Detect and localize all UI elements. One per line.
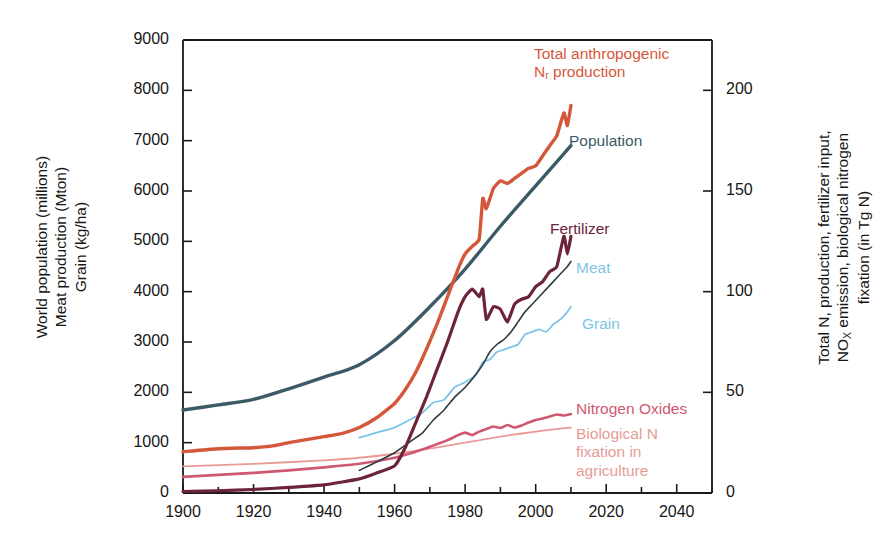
y-tick-label-left: 7000 <box>109 131 169 149</box>
y-tick-label-left: 1000 <box>109 433 169 451</box>
y-tick-label-left: 4000 <box>109 282 169 300</box>
y-tick-label-left: 3000 <box>109 332 169 350</box>
y-tick-label-left: 2000 <box>109 382 169 400</box>
y-tick-label-right: 100 <box>726 282 786 300</box>
y-tick-label-right: 150 <box>726 181 786 199</box>
series-line-total-anthropogenic-nr-production <box>183 105 571 451</box>
chart-figure: World population (millions) Meat product… <box>0 0 880 551</box>
series-label-grain: Grain <box>582 315 620 333</box>
x-tick-label: 2040 <box>642 503 712 521</box>
y-tick-label-left: 9000 <box>109 30 169 48</box>
y-tick-label-right: 200 <box>726 80 786 98</box>
y-tick-label-left: 5000 <box>109 231 169 249</box>
series-label-total-nr: Total anthropogenicNr production <box>534 45 669 82</box>
x-tick-label: 1980 <box>430 503 500 521</box>
y-tick-label-left: 0 <box>109 483 169 501</box>
series-line-population <box>183 146 571 410</box>
series-label-meat: Meat <box>576 259 610 277</box>
series-line-fertilizer <box>183 236 571 491</box>
series-line-meat <box>359 261 571 470</box>
x-tick-label: 2020 <box>571 503 641 521</box>
y-tick-label-right: 50 <box>726 382 786 400</box>
x-tick-label: 1900 <box>148 503 218 521</box>
x-tick-label: 2000 <box>501 503 571 521</box>
series-label-fertilizer: Fertilizer <box>550 220 609 238</box>
series-label-population: Population <box>569 132 642 150</box>
y-tick-label-left: 6000 <box>109 181 169 199</box>
series-line-nitrogen-oxides <box>183 414 571 477</box>
y-tick-label-left: 8000 <box>109 80 169 98</box>
x-tick-label: 1940 <box>289 503 359 521</box>
series-label-nitrogen-oxides: Nitrogen Oxides <box>576 400 687 418</box>
x-tick-label: 1920 <box>219 503 289 521</box>
y-tick-label-right: 0 <box>726 483 786 501</box>
series-label-biological-n: Biological N fixation in agriculture <box>576 425 658 480</box>
x-tick-label: 1960 <box>360 503 430 521</box>
